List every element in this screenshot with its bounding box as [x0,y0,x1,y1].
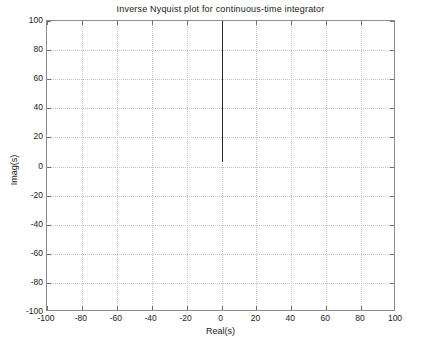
x-tick-label: -80 [75,313,87,323]
x-tick-label: -60 [110,313,122,323]
figure-canvas: Inverse Nyquist plot for continuous-time… [0,0,423,347]
x-tick-label: -40 [145,313,157,323]
y-tick-label: 0 [38,161,43,171]
y-tick-label: 60 [34,73,43,83]
y-tick-label: -60 [31,248,43,258]
x-tick-label: -20 [179,313,191,323]
x-tick-label: 20 [251,313,260,323]
y-tick-label: -100 [26,306,43,316]
y-tick-label: 100 [29,15,43,25]
chart-title: Inverse Nyquist plot for continuous-time… [46,4,395,14]
y-axis-label: Imag(s) [9,140,19,200]
x-axis-label: Real(s) [46,326,395,336]
x-tick-label: 40 [286,313,295,323]
data-series-layer [47,21,394,310]
y-tick-label: 80 [34,44,43,54]
y-tick-label: -20 [31,190,43,200]
y-tick-label: -80 [31,277,43,287]
x-tick-label: 0 [218,313,223,323]
y-tick-label: 40 [34,102,43,112]
series-line-inverse-nyquist [222,21,223,162]
x-tick-label: 80 [355,313,364,323]
plot-area [46,20,395,311]
y-tick-label: 20 [34,131,43,141]
x-tick-label: 100 [388,313,402,323]
y-tick-label: -40 [31,219,43,229]
x-tick-label: 60 [320,313,329,323]
